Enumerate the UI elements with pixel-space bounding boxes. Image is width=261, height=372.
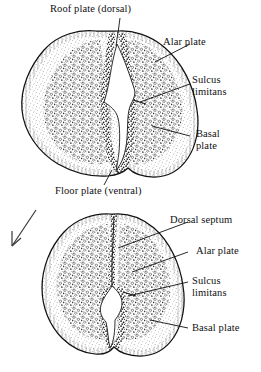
- lower-cord-section: [12, 208, 196, 363]
- label-roof-plate: Roof plate (dorsal): [50, 3, 131, 15]
- label-sulcus-limitans-2: Sulcus limitans: [192, 275, 227, 298]
- label-basal-plate: Basal plate: [196, 128, 220, 151]
- label-alar-plate-2: Alar plate: [196, 245, 239, 257]
- anatomical-figure: Roof plate (dorsal) Alar plate Sulcus li…: [0, 0, 261, 372]
- hand-drawn-arrow-icon: [12, 210, 36, 246]
- label-sulcus-limitans: Sulcus limitans: [192, 74, 227, 97]
- label-basal-plate-2: Basal plate: [192, 322, 239, 334]
- label-alar-plate: Alar plate: [163, 36, 206, 48]
- label-floor-plate: Floor plate (ventral): [55, 185, 142, 197]
- label-dorsal-septum: Dorsal septum: [170, 214, 232, 226]
